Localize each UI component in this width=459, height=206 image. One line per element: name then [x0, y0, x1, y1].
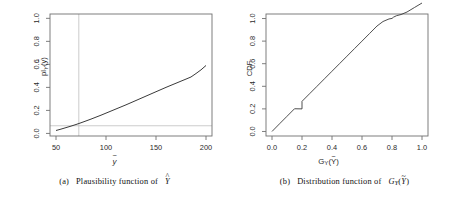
x-tick-label: 0.8	[387, 143, 397, 152]
x-tick-label: 0.4	[327, 143, 337, 152]
y-tick-label: 0.2	[248, 104, 257, 114]
plot-a-svg: 0.0 0.2 0.4 0.6 0.8 1.0 50 100 150 200	[0, 0, 229, 175]
x-tick-label: 200	[200, 143, 212, 152]
caption-a-prefix: (a)	[59, 177, 69, 186]
plot-b-ylabel: CDF	[245, 44, 254, 94]
plot-b-y-ticks	[262, 19, 266, 132]
figure-container: 0.0 0.2 0.4 0.6 0.8 1.0 50 100 150 200	[0, 0, 459, 206]
tilde-accent-icon: ~	[401, 173, 406, 181]
plot-a-x-ticklabels: 50 100 150 200	[52, 143, 212, 152]
tilde-accent-icon: ~	[113, 152, 117, 160]
tilde-accent-icon: ~	[35, 60, 42, 62]
empirical-cdf-curve	[272, 3, 422, 131]
ylabel-a-subscript: Y	[42, 66, 49, 70]
caption-b-paren-close: )	[406, 177, 409, 186]
panel-plausibility-function: 0.0 0.2 0.4 0.6 0.8 1.0 50 100 150 200	[0, 0, 229, 206]
plot-a-reference-lines	[50, 14, 212, 136]
y-tick-label: 0.0	[32, 128, 41, 138]
plot-b-frame	[266, 14, 428, 136]
x-tick-label: 0.6	[357, 143, 367, 152]
panel-distribution-function: 0.0 0.2 0.4 0.6 0.8 1.0 0.0 0.2 0.4 0.6	[230, 0, 459, 206]
tilde-accent-icon: ~	[332, 153, 336, 160]
plot-b-x-ticks	[272, 136, 422, 140]
caption-b-prefix: (b)	[280, 177, 290, 186]
plot-b-xlabel: GY ~ (Y)	[230, 157, 459, 166]
xlabel-a-group: ~ y	[113, 157, 117, 166]
x-tick-label: 0.0	[267, 143, 277, 152]
caption-b: (b) Distribution function of GY(~Y)	[230, 177, 459, 186]
caption-a-symbol-group: ^ Y	[165, 177, 170, 186]
plot-b-svg: 0.0 0.2 0.4 0.6 0.8 1.0 0.0 0.2 0.4 0.6	[230, 0, 459, 175]
x-tick-label: 150	[150, 143, 162, 152]
plot-a-frame	[50, 14, 212, 136]
x-tick-label: 100	[100, 143, 112, 152]
x-tick-label: 50	[52, 143, 60, 152]
y-tick-label: 0.2	[32, 105, 41, 115]
caption-b-argument-group: ~Y	[401, 177, 406, 186]
caption-a-text: Plausibility function of	[76, 177, 158, 186]
plot-a-xlabel: ~ y	[0, 157, 229, 166]
y-tick-label: 0.0	[248, 126, 257, 136]
y-tick-label: 1.0	[248, 13, 257, 23]
y-tick-label: 1.0	[32, 13, 41, 23]
plot-b-x-ticklabels: 0.0 0.2 0.4 0.6 0.8 1.0	[267, 143, 427, 152]
caption-b-text: Distribution function of	[297, 177, 381, 186]
x-tick-label: 0.2	[297, 143, 307, 152]
ylabel-a-pl: pl	[39, 70, 48, 76]
plot-a-ylabel: plY ~ (y)	[39, 37, 48, 97]
plot-a-x-ticks	[56, 136, 206, 140]
x-tick-label: 1.0	[417, 143, 427, 152]
caption-a: (a) Plausibility function of ^ Y	[0, 177, 229, 186]
circumflex-accent-icon: ^	[165, 173, 170, 181]
